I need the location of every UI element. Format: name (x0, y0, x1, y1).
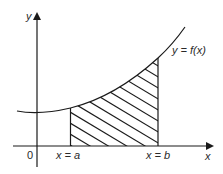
curve-f-of-x (17, 27, 185, 113)
upper-bound-label: x = b (145, 149, 170, 161)
lower-bound-label: x = a (55, 149, 80, 161)
y-axis-label: y (25, 10, 33, 22)
x-axis-label: x (204, 150, 211, 162)
curve-label: y = f(x) (171, 44, 206, 56)
area-under-curve-diagram: y x 0 x = a x = b y = f(x) (0, 0, 223, 174)
origin-label: 0 (27, 149, 33, 161)
